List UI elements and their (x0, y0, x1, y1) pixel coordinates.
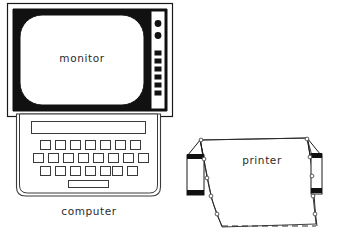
key[interactable] (86, 141, 96, 150)
tractor-right-bar-top (311, 153, 322, 158)
sprocket-hole (202, 157, 206, 161)
illustration-canvas: monitor (0, 0, 347, 245)
key[interactable] (128, 167, 138, 176)
monitor-button-4[interactable] (155, 75, 162, 80)
monitor-group: monitor (8, 4, 173, 117)
key[interactable] (109, 154, 119, 163)
keyboard-row-1 (41, 141, 141, 150)
key[interactable] (71, 167, 81, 176)
key[interactable] (131, 141, 141, 150)
key[interactable] (86, 167, 96, 176)
monitor-knob-2[interactable] (155, 32, 162, 39)
sprocket-hole (205, 176, 209, 180)
monitor-label: monitor (59, 52, 104, 64)
monitor-knob-1[interactable] (155, 20, 162, 27)
sprocket-hole (305, 137, 309, 141)
keyboard-display-strip[interactable] (32, 122, 146, 134)
key[interactable] (41, 167, 51, 176)
monitor-button-5[interactable] (155, 83, 162, 88)
key[interactable] (116, 141, 126, 150)
key[interactable] (101, 141, 111, 150)
printer-tractor-left (187, 140, 204, 196)
key[interactable] (64, 154, 74, 163)
sprocket-hole (209, 194, 213, 198)
printer-group: printer (187, 137, 322, 227)
key[interactable] (113, 167, 123, 176)
monitor-button-2[interactable] (155, 59, 162, 64)
key[interactable] (71, 141, 81, 150)
printer-label: printer (242, 154, 282, 166)
tractor-left-body (187, 155, 204, 195)
key[interactable] (79, 154, 89, 163)
key[interactable] (41, 141, 51, 150)
computer-label: computer (61, 205, 117, 217)
monitor-button-6[interactable] (155, 91, 162, 96)
computer-group: computer (17, 114, 161, 217)
tractor-right-bar-bottom (311, 188, 322, 193)
sprocket-hole (313, 212, 317, 216)
keyboard-row-3 (41, 167, 138, 176)
key[interactable] (56, 167, 66, 176)
tractor-left-bar-bottom (187, 190, 204, 195)
monitor-button-1[interactable] (155, 51, 162, 56)
key[interactable] (101, 167, 111, 176)
key[interactable] (56, 141, 66, 150)
key[interactable] (34, 154, 44, 163)
sprocket-hole (311, 194, 315, 198)
sprocket-hole (308, 155, 312, 159)
key[interactable] (139, 154, 149, 163)
key[interactable] (124, 154, 134, 163)
tractor-left-bar-top (187, 154, 204, 159)
sprocket-hole (199, 138, 203, 142)
monitor-button-3[interactable] (155, 67, 162, 72)
key[interactable] (94, 154, 104, 163)
sprocket-hole (215, 212, 219, 216)
keyboard-spacebar[interactable] (69, 181, 109, 188)
key[interactable] (49, 154, 59, 163)
sprocket-hole (310, 174, 314, 178)
equipment-diagram: monitor (0, 0, 347, 245)
